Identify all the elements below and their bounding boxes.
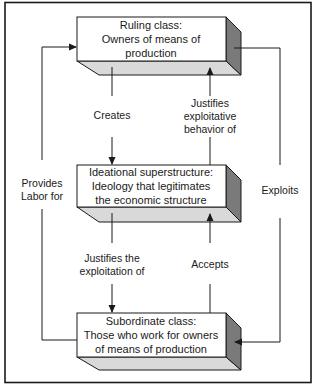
node-line: production [102, 46, 200, 60]
edge-label-line: Provides [21, 177, 63, 190]
node-title: Subordinate class: [84, 314, 219, 328]
node-line: the economic structure [89, 193, 213, 207]
node-subordinate-text: Subordinate class: Those who work for ow… [84, 314, 219, 356]
edge-label-line: Creates [94, 109, 131, 122]
node-ideational-text: Ideational superstructure: Ideology that… [89, 165, 213, 207]
node-line: Those who work for owners [84, 328, 219, 342]
edge-label-justifies-behavior: Justifies exploitative behavior of [184, 97, 237, 136]
edge-label-line: Justifies [184, 97, 237, 110]
edge-label-line: Accepts [191, 258, 228, 271]
edge-label-provides-labor: Provides Labor for [21, 177, 63, 203]
edge-label-line: exploitation of [80, 265, 145, 278]
edge-label-line: Exploits [262, 184, 299, 197]
node-line: Ideology that legitimates [89, 179, 213, 193]
edge-label-creates: Creates [94, 109, 131, 122]
edge-label-accepts: Accepts [191, 258, 228, 271]
edge-label-justifies-exploitation: Justifies the exploitation of [80, 252, 145, 278]
node-title: Ruling class: [102, 18, 200, 32]
edge-label-exploits: Exploits [262, 184, 299, 197]
edge-label-line: Justifies the [80, 252, 145, 265]
node-ruling-class-text: Ruling class: Owners of means of product… [102, 18, 200, 60]
node-line: of means of production [84, 342, 219, 356]
edge-label-line: behavior of [184, 123, 237, 136]
edge-label-line: Labor for [21, 190, 63, 203]
node-line: Owners of means of [102, 32, 200, 46]
node-title: Ideational superstructure: [89, 165, 213, 179]
edge-label-line: exploitative [184, 110, 237, 123]
